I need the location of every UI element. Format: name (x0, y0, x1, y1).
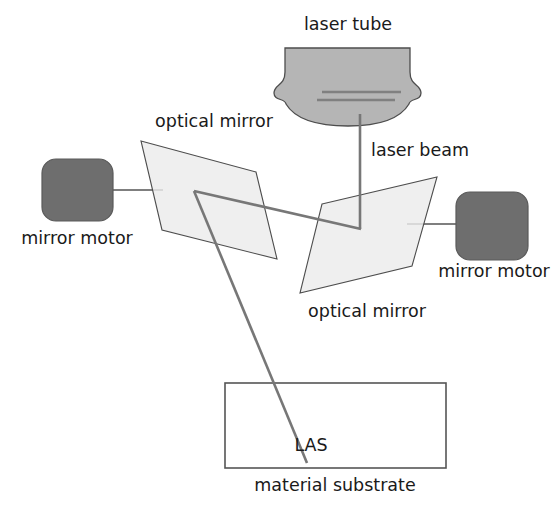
mirror-motor-right-body (456, 192, 528, 260)
label-laser-tube: laser tube (304, 16, 392, 34)
label-laser-beam: laser beam (371, 142, 469, 160)
laser-tube-body (274, 48, 421, 126)
label-las: LAS (294, 437, 327, 455)
laser-system-diagram (0, 0, 559, 510)
optical-mirror-top-shape (141, 141, 277, 259)
label-optical-mirror-bottom: optical mirror (308, 303, 426, 321)
label-mirror-motor-right: mirror motor (438, 263, 550, 281)
label-material-substrate: material substrate (254, 477, 415, 495)
diagram-canvas: laser tube optical mirror laser beam mir… (0, 0, 559, 510)
label-mirror-motor-left: mirror motor (21, 230, 133, 248)
material-substrate-box (225, 383, 446, 468)
optical-mirror-bottom-shape (300, 177, 437, 293)
mirror-motor-left-body (42, 159, 113, 221)
label-optical-mirror-top: optical mirror (155, 113, 273, 131)
